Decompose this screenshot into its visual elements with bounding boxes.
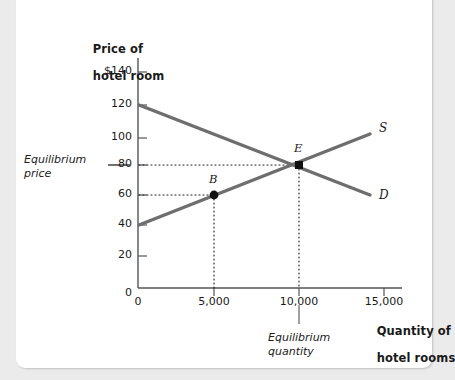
- equilibrium-price-annotation: Equilibrium price: [18, 150, 104, 186]
- y-tick-label-100: 100: [86, 131, 132, 144]
- equilibrium-quantity-line1: Equilibrium: [268, 331, 330, 344]
- point-e-label: E: [294, 142, 302, 156]
- point-b-label: B: [209, 173, 217, 187]
- supply-curve-label: S: [379, 121, 387, 135]
- guide-lines: [139, 165, 299, 288]
- x-axis-title-line2: hotel rooms: [377, 351, 455, 365]
- equilibrium-point-marker: [295, 161, 303, 169]
- y-tick-label-140: $140: [86, 65, 132, 78]
- x-tick-label-10000: 10,000: [269, 296, 329, 309]
- demand-curve: [139, 105, 370, 195]
- y-axis-ticks: [138, 72, 147, 256]
- y-axis-title-line1: Price of: [93, 42, 143, 56]
- demand-curve-label: D: [379, 188, 389, 202]
- x-tick-label-5000: 5,000: [186, 296, 242, 309]
- supply-curve: [139, 134, 370, 225]
- y-axis-title: Price of hotel room: [68, 29, 134, 97]
- x-axis-title: Quantity of hotel rooms: [352, 311, 444, 379]
- y-tick-label-40: 40: [86, 218, 132, 231]
- equilibrium-price-line1: Equilibrium: [24, 153, 86, 166]
- y-tick-label-20: 20: [86, 249, 132, 262]
- y-tick-label-120: 120: [86, 98, 132, 111]
- y-tick-label-60: 60: [86, 188, 132, 201]
- x-axis-title-line1: Quantity of: [377, 324, 451, 338]
- point-b-marker: [210, 191, 219, 200]
- x-tick-label-0: 0: [118, 296, 158, 309]
- x-tick-label-15000: 15,000: [354, 296, 414, 309]
- equilibrium-quantity-annotation: Equilibrium quantity: [268, 331, 346, 360]
- equilibrium-quantity-line2: quantity: [268, 345, 314, 358]
- equilibrium-price-line2: price: [24, 167, 51, 180]
